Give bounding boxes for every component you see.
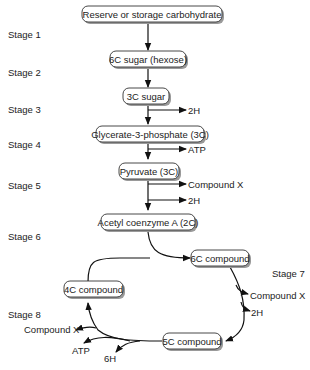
- respiration-diagram: Stage 1 Stage 2 Stage 3 Stage 4 Stage 5 …: [0, 0, 310, 370]
- svg-text:Glycerate-3-phosphate (3C): Glycerate-3-phosphate (3C): [91, 129, 209, 140]
- svg-text:Acetyl coenzyme A (2C): Acetyl coenzyme A (2C): [98, 217, 199, 228]
- arrow-6h: [116, 341, 140, 352]
- arrow-stage-8: [88, 303, 162, 341]
- svg-text:Reserve or storage carbohydrat: Reserve or storage carbohydrate: [83, 9, 222, 20]
- arrow-2h: [241, 302, 250, 311]
- stage-label: Stage 7: [272, 268, 305, 279]
- svg-text:6C compound: 6C compound: [190, 253, 249, 264]
- stage-label: Stage 2: [8, 67, 41, 78]
- product-compound-x: Compound X: [250, 290, 306, 301]
- product-2h: 2H: [188, 195, 200, 206]
- svg-text:6C sugar (hexose): 6C sugar (hexose): [109, 54, 187, 65]
- stage-label: Stage 1: [8, 29, 41, 40]
- product-compound-x: Compound X: [188, 179, 244, 190]
- box-3c-sugar: 3C sugar: [123, 88, 171, 106]
- box-acetyl-coenzyme-a: Acetyl coenzyme A (2C): [98, 214, 199, 232]
- stage-label: Stage 4: [8, 139, 41, 150]
- product-6h: 6H: [104, 353, 116, 364]
- svg-text:4C compound: 4C compound: [64, 284, 123, 295]
- stage-label: Stage 8: [8, 309, 41, 320]
- arrow-4c-to-6c: [88, 258, 150, 282]
- arrow-atp: [84, 337, 130, 343]
- box-hexose: 6C sugar (hexose): [109, 51, 188, 69]
- stage-label: Stage 5: [8, 180, 41, 191]
- product-atp: ATP: [72, 345, 90, 356]
- product-2h: 2H: [188, 105, 200, 116]
- box-5c-compound: 5C compound: [162, 333, 223, 351]
- product-2h: 2H: [251, 307, 263, 318]
- box-6c-compound: 6C compound: [190, 250, 251, 268]
- box-4c-compound: 4C compound: [64, 281, 125, 299]
- product-atp: ATP: [188, 144, 206, 155]
- svg-text:3C sugar: 3C sugar: [127, 91, 166, 102]
- box-glycerate-3-phosphate: Glycerate-3-phosphate (3C): [91, 126, 209, 144]
- box-pyruvate: Pyruvate (3C): [119, 163, 181, 181]
- stage-label: Stage 6: [8, 231, 41, 242]
- stage-label: Stage 3: [8, 104, 41, 115]
- arrow-stage-6: [148, 232, 190, 258]
- product-compound-x: Compound X: [24, 324, 80, 335]
- svg-text:Pyruvate (3C): Pyruvate (3C): [120, 166, 179, 177]
- arrow-compound-x: [236, 285, 248, 294]
- box-reserve-carbohydrate: Reserve or storage carbohydrate: [82, 6, 224, 24]
- svg-text:5C compound: 5C compound: [162, 336, 221, 347]
